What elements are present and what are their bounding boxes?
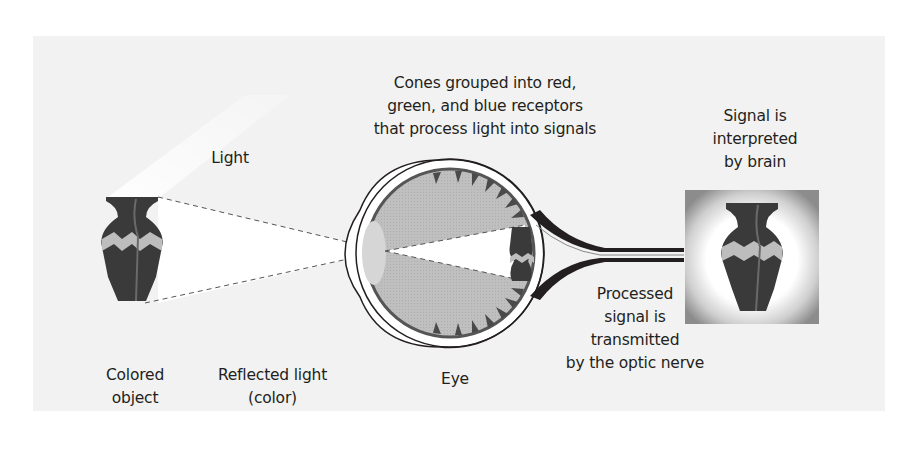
label-brain-line-3: by brain <box>695 151 815 174</box>
label-cones-line-2: green, and blue receptors <box>345 95 625 118</box>
label-brain: Signal is interpreted by brain <box>695 105 815 174</box>
label-light-line: Light <box>195 147 265 170</box>
label-reflected-light-line-1: Reflected light <box>200 364 345 387</box>
eye-illustration <box>345 159 544 348</box>
label-reflected-light: Reflected light (color) <box>200 364 345 410</box>
label-cones-line-1: Cones grouped into red, <box>345 72 625 95</box>
label-eye-line: Eye <box>425 368 485 391</box>
label-brain-line-2: interpreted <box>695 128 815 151</box>
label-cones-line-3: that process light into signals <box>345 118 625 141</box>
colored-object-vase <box>101 197 162 301</box>
label-reflected-light-line-2: (color) <box>200 387 345 410</box>
label-optic-nerve-line-2: signal is <box>555 306 715 329</box>
label-optic-nerve-line-1: Processed <box>555 283 715 306</box>
label-light: Light <box>195 147 265 170</box>
light-beam <box>108 95 290 197</box>
label-optic-nerve: Processed signal is transmitted by the o… <box>555 283 715 375</box>
label-eye: Eye <box>425 368 485 391</box>
label-cones: Cones grouped into red, green, and blue … <box>345 72 625 141</box>
label-colored-object: Colored object <box>85 364 185 410</box>
label-brain-line-1: Signal is <box>695 105 815 128</box>
label-optic-nerve-line-4: by the optic nerve <box>555 352 715 375</box>
label-optic-nerve-line-3: transmitted <box>555 329 715 352</box>
label-colored-object-line-2: object <box>85 387 185 410</box>
label-colored-object-line-1: Colored <box>85 364 185 387</box>
